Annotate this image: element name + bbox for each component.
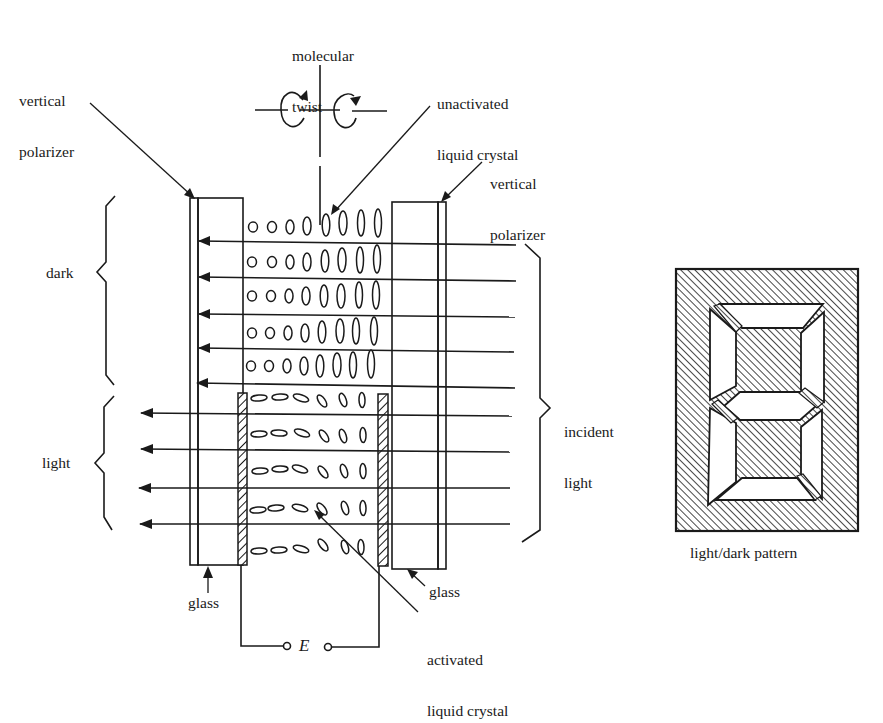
left-electrode xyxy=(238,393,247,565)
right-electrode xyxy=(378,394,388,566)
incident-brace xyxy=(522,244,550,542)
label-polarizer: polarizer xyxy=(19,143,74,160)
label-incident-light: incident light xyxy=(564,389,614,508)
label-left-polarizer: vertical polarizer xyxy=(19,58,74,177)
label-light-word: light xyxy=(564,474,614,491)
label-molecular-twist: molecular twist xyxy=(292,13,354,132)
voltage-circuit xyxy=(241,565,379,651)
label-liquid-crystal: liquid crystal xyxy=(427,702,508,719)
dark-brace xyxy=(97,196,115,385)
label-polarizer: polarizer xyxy=(490,226,545,243)
label-activated: activated xyxy=(427,651,508,668)
light-brace xyxy=(95,396,114,530)
label-light: light xyxy=(42,454,70,471)
label-glass-right: glass xyxy=(429,583,460,600)
unactivated-molecules xyxy=(247,209,382,378)
activated-molecules xyxy=(250,392,366,554)
label-twist: twist xyxy=(292,98,354,115)
seven-segment-pattern xyxy=(676,269,858,531)
label-pattern-caption: light/dark pattern xyxy=(690,544,797,561)
label-vertical: vertical xyxy=(19,92,74,109)
label-unactivated: unactivated xyxy=(437,95,518,112)
left-polarizer xyxy=(190,198,243,565)
label-vertical: vertical xyxy=(490,175,545,192)
label-activated-lc: activated liquid crystal xyxy=(427,617,508,723)
label-dark: dark xyxy=(46,264,74,281)
leader-lines xyxy=(90,103,482,612)
label-voltage-e: E xyxy=(299,637,309,654)
label-glass-left: glass xyxy=(188,594,219,611)
label-molecular: molecular xyxy=(292,47,354,64)
label-incident: incident xyxy=(564,423,614,440)
label-right-polarizer: vertical polarizer xyxy=(490,141,545,260)
